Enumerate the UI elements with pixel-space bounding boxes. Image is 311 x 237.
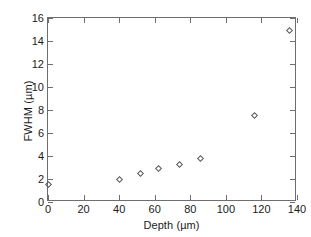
data-point [116, 175, 123, 182]
y-tick-mark-right [290, 18, 295, 19]
x-axis-title: Depth (µm) [47, 219, 296, 231]
x-tick-mark [84, 195, 85, 200]
x-tick-mark-top [84, 18, 85, 23]
y-tick-label: 0 [38, 196, 44, 208]
x-tick-mark [297, 195, 298, 200]
x-tick-label: 20 [77, 203, 89, 215]
y-tick-mark [48, 179, 53, 180]
x-tick-mark [155, 195, 156, 200]
x-tick-mark-top [48, 18, 49, 23]
data-point [176, 161, 183, 168]
x-tick-mark [48, 195, 49, 200]
x-tick-label: 80 [184, 203, 196, 215]
y-tick-label: 10 [32, 81, 44, 93]
data-point [155, 165, 162, 172]
y-tick-mark-right [290, 179, 295, 180]
x-tick-mark [226, 195, 227, 200]
x-tick-mark [261, 195, 262, 200]
x-tick-mark-top [261, 18, 262, 23]
y-tick-label: 16 [32, 12, 44, 24]
data-point [137, 170, 144, 177]
y-tick-mark [48, 110, 53, 111]
y-tick-label: 4 [38, 150, 44, 162]
y-tick-mark [48, 41, 53, 42]
scatter-plot-figure: FWHM (µm) Depth (µm) 0246810121416 02040… [0, 0, 311, 237]
y-tick-mark-right [290, 87, 295, 88]
y-tick-mark-right [290, 41, 295, 42]
y-tick-mark-right [290, 156, 295, 157]
y-tick-mark-right [290, 110, 295, 111]
x-tick-mark-top [119, 18, 120, 23]
y-tick-mark [48, 87, 53, 88]
y-tick-label: 14 [32, 35, 44, 47]
y-tick-label: 12 [32, 58, 44, 70]
y-tick-label: 8 [38, 104, 44, 116]
data-point [44, 181, 51, 188]
y-tick-mark-right [290, 133, 295, 134]
y-tick-label: 6 [38, 127, 44, 139]
x-tick-label: 140 [288, 203, 306, 215]
x-tick-mark-top [297, 18, 298, 23]
data-point [251, 112, 258, 119]
x-tick-label: 60 [149, 203, 161, 215]
x-tick-mark [190, 195, 191, 200]
plot-area: 0246810121416 020406080100120140 [47, 17, 296, 201]
data-point [286, 27, 293, 34]
x-tick-label: 0 [45, 203, 51, 215]
y-tick-mark-right [290, 64, 295, 65]
x-tick-mark-top [226, 18, 227, 23]
y-tick-mark [48, 64, 53, 65]
x-tick-mark-top [155, 18, 156, 23]
x-tick-mark [119, 195, 120, 200]
x-tick-mark-top [190, 18, 191, 23]
y-tick-mark [48, 156, 53, 157]
y-tick-label: 2 [38, 173, 44, 185]
data-point [197, 155, 204, 162]
x-tick-label: 100 [217, 203, 235, 215]
y-tick-mark [48, 133, 53, 134]
x-tick-label: 120 [252, 203, 270, 215]
x-tick-label: 40 [113, 203, 125, 215]
